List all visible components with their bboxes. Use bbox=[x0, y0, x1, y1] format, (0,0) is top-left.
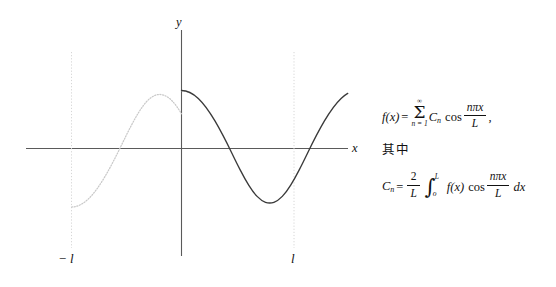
formula2-frac1-numerator: 2 bbox=[407, 170, 419, 185]
curve-f-solid bbox=[182, 91, 348, 204]
formula-where-label: 其中 bbox=[382, 144, 552, 157]
curve-even-extension-dotted bbox=[72, 94, 182, 207]
formula1-fraction-denominator: L bbox=[464, 116, 487, 130]
formula1-trailing-comma: , bbox=[488, 110, 491, 124]
formula2-fx: f(x) bbox=[444, 180, 464, 194]
x-axis-label: x bbox=[352, 142, 358, 155]
formula-fourier-series: f(x)=∞Σn = 1CncosnπxL, bbox=[382, 98, 552, 130]
x-tick-label-minus-l: − l bbox=[58, 252, 74, 265]
formula1-coefficient: C bbox=[429, 110, 437, 124]
formula2-cos: cos bbox=[464, 180, 485, 194]
formula2-dx: dx bbox=[511, 180, 525, 194]
summation-operator: ∞Σn = 1 bbox=[411, 98, 427, 128]
formula1-fx: f(x) bbox=[382, 110, 399, 124]
formula2-fraction: nπxL bbox=[487, 170, 510, 199]
integral-limits: Lo bbox=[436, 182, 443, 195]
formula1-cos: cos bbox=[441, 110, 462, 124]
formula1-equals: = bbox=[399, 110, 410, 124]
formula-block: f(x)=∞Σn = 1CncosnπxL, 其中 Cn=2L∫Lof(x)co… bbox=[382, 98, 552, 200]
formula2-fraction-denominator: L bbox=[487, 186, 510, 200]
integral-upper-limit: L bbox=[435, 173, 439, 181]
formula2-fraction-numerator: nπx bbox=[487, 170, 510, 185]
formula1-fraction-numerator: nπx bbox=[464, 101, 487, 116]
summation-lower-limit: n = 1 bbox=[411, 120, 427, 128]
integral-lower-limit: o bbox=[433, 190, 437, 198]
chart-svg bbox=[0, 0, 365, 287]
cosine-extension-chart: y x − l l bbox=[0, 0, 365, 287]
integral-operator: ∫Lo bbox=[425, 179, 443, 197]
formula2-frac1-denominator: L bbox=[407, 186, 419, 200]
formula-coefficient-definition: Cn=2L∫Lof(x)cosnπxLdx bbox=[382, 170, 552, 199]
formula2-equals: = bbox=[394, 180, 405, 194]
x-tick-label-plus-l: l bbox=[291, 252, 295, 265]
formula1-fraction: nπxL bbox=[464, 101, 487, 130]
y-axis-label: y bbox=[176, 16, 182, 29]
formula2-fraction-two-over-l: 2L bbox=[407, 170, 419, 199]
figure-root: y x − l l f(x)=∞Σn = 1CncosnπxL, 其中 Cn=2… bbox=[0, 0, 556, 287]
